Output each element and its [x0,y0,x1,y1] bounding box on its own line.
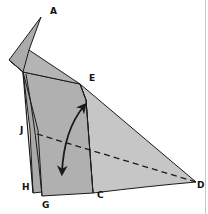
label-j: J [19,125,23,135]
label-h: H [22,182,30,192]
label-a: A [50,6,57,16]
light-flap [80,84,196,193]
origami-diagram: A E J H G C D [0,0,208,214]
label-e: E [89,73,95,83]
label-g: G [42,200,49,210]
label-d: D [197,180,204,190]
label-c: C [97,190,104,200]
